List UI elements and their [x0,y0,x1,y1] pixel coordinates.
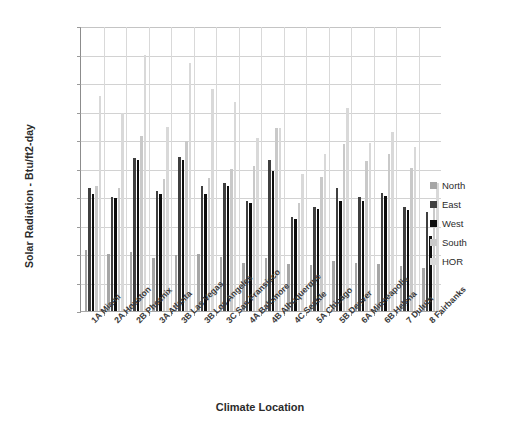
y-tick-mark [77,198,81,199]
bar-group [355,26,373,311]
chart-legend: NorthEastWestSouthHOR [430,176,508,271]
bar-group [400,26,418,311]
bar-group [130,26,148,311]
bar-hor [99,96,102,311]
legend-item-south: South [430,233,508,252]
y-tick-mark [77,284,81,285]
y-tick-mark [77,141,81,142]
legend-label: East [442,199,461,210]
bar-group [152,26,170,311]
bar-south [275,128,278,311]
legend-label: South [442,237,467,248]
x-gridline [239,27,240,312]
legend-swatch-icon [430,239,437,246]
x-gridline [396,27,397,312]
x-gridline [194,27,195,312]
solar-radiation-bar-chart: Solar Radiation - Btu/ft2-day 0200400600… [0,0,512,428]
bar-group [332,26,350,311]
bar-hor [234,102,237,311]
x-gridline [104,27,105,312]
legend-item-hor: HOR [430,252,508,271]
bar-east [223,183,226,311]
legend-label: HOR [442,256,463,267]
bar-hor [211,89,214,311]
bar-south [118,188,121,311]
bar-south [95,186,98,311]
bar-hor [144,55,147,312]
x-axis-title: Climate Location [80,401,440,413]
x-gridline [216,27,217,312]
y-tick-mark [77,84,81,85]
bar-hor [414,147,417,311]
y-tick-mark [77,27,81,28]
bar-group [107,26,125,311]
bar-hor [369,143,372,311]
legend-item-east: East [430,195,508,214]
legend-label: North [442,180,465,191]
bar-north [85,250,88,311]
plot-area: 02004006008001,0001,2001,4001,6001,8002,… [80,27,440,312]
legend-item-north: North [430,176,508,195]
y-axis-title: Solar Radiation - Btu/ft2-day [23,71,35,321]
bar-hor [324,154,327,311]
y-tick-mark [77,255,81,256]
bar-group [85,26,103,311]
bar-hor [346,108,349,311]
x-gridline [419,27,420,312]
y-tick-mark [77,312,81,313]
y-tick-mark [77,113,81,114]
bar-south [185,141,188,311]
bar-east [178,157,181,311]
x-gridline [284,27,285,312]
legend-swatch-icon [430,258,437,265]
bar-west [92,194,95,311]
x-gridline [329,27,330,312]
bar-hor [189,63,192,311]
bar-group [242,26,260,311]
legend-swatch-icon [430,182,437,189]
bar-east [133,158,136,311]
bar-group [220,26,238,311]
legend-swatch-icon [430,201,437,208]
legend-swatch-icon [430,220,437,227]
x-gridline [306,27,307,312]
bar-south [140,136,143,311]
bar-hor [166,127,169,311]
bar-east [268,160,271,311]
bar-group [310,26,328,311]
bar-group [197,26,215,311]
x-gridline [126,27,127,312]
y-tick-mark [77,227,81,228]
legend-item-west: West [430,214,508,233]
x-gridline [374,27,375,312]
y-tick-mark [77,170,81,171]
bar-west [137,160,140,311]
x-gridline [261,27,262,312]
x-gridline [171,27,172,312]
x-gridline [351,27,352,312]
bar-group [287,26,305,311]
y-tick-mark [77,56,81,57]
bar-group [175,26,193,311]
bar-west [182,160,185,311]
legend-label: West [442,218,463,229]
bar-east [88,188,91,311]
x-gridline [149,27,150,312]
bar-hor [121,113,124,311]
bar-group [377,26,395,311]
